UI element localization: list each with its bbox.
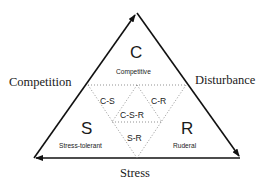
axis-label-competition: Competition <box>9 75 72 89</box>
corner-letter-c: C <box>130 43 142 62</box>
axis-label-disturbance: Disturbance <box>195 73 256 87</box>
corner-label-stress-tolerant: Stress-tolerant <box>59 142 102 149</box>
axis-label-stress: Stress <box>120 166 150 180</box>
intermediate-label-s-r: S-R <box>127 133 142 143</box>
intermediate-label-c-s-r: C-S-R <box>120 110 144 120</box>
corner-letter-r: R <box>181 119 193 138</box>
intermediate-label-c-s: C-S <box>100 96 115 106</box>
corner-label-ruderal: Ruderal <box>173 142 197 149</box>
intermediate-label-c-r: C-R <box>151 96 166 106</box>
corner-letter-s: S <box>81 119 92 138</box>
corner-label-competitive: Competitive <box>116 68 151 76</box>
csr-triangle-diagram: Competition Disturbance Stress C Competi… <box>0 0 270 187</box>
